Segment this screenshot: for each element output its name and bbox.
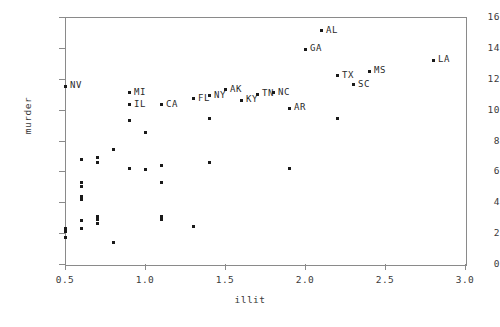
y-tick-label: 10 [448,104,500,115]
x-tick-mark [145,264,146,270]
data-point [288,107,291,110]
data-point [144,168,147,171]
data-point [336,74,339,77]
data-point-label: LA [438,54,450,64]
data-point [160,218,163,221]
data-point-label: IL [134,99,146,109]
data-point [208,161,211,164]
data-point [112,241,115,244]
data-point [272,91,275,94]
data-point [144,131,147,134]
y-tick-label: 4 [448,196,500,207]
x-tick-mark [385,264,386,270]
data-point [128,119,131,122]
data-point-label: KY [246,94,258,104]
data-point [64,85,67,88]
y-tick-label: 8 [448,135,500,146]
data-point-label: NV [70,80,82,90]
data-point [96,222,99,225]
data-point-label: NY [214,90,226,100]
data-point-label: MS [374,65,386,75]
data-point [112,148,115,151]
y-tick-mark [59,79,65,80]
data-point [208,117,211,120]
data-point [96,161,99,164]
data-point [128,91,131,94]
x-tick-mark [225,264,226,270]
x-tick-label: 1.0 [115,274,175,285]
y-tick-mark [59,202,65,203]
data-point [80,198,83,201]
y-tick-label: 6 [448,165,500,176]
x-tick-label: 2.5 [355,274,415,285]
x-tick-label: 3.0 [435,274,495,285]
x-tick-label: 1.5 [195,274,255,285]
data-point [96,156,99,159]
y-tick-mark [59,17,65,18]
y-tick-mark [59,141,65,142]
x-tick-mark [65,264,66,270]
data-point [96,218,99,221]
data-point [160,181,163,184]
data-point-label: SC [358,79,370,89]
y-tick-mark [59,233,65,234]
data-point [320,29,323,32]
data-point-label: AK [230,84,242,94]
y-tick-mark [59,110,65,111]
data-point [256,93,259,96]
data-point [304,48,307,51]
data-point [160,164,163,167]
data-point-label: MI [134,87,146,97]
data-point [288,167,291,170]
data-point [128,103,131,106]
data-point [224,88,227,91]
x-tick-mark [305,264,306,270]
data-point [80,158,83,161]
data-point [352,83,355,86]
y-tick-mark [59,171,65,172]
plot-data-area: NVMIILCAFLNYAKKYTNNCARGAALTXSCMSLA [65,17,465,264]
y-tick-label: 14 [448,42,500,53]
y-tick-label: 0 [448,258,500,269]
data-point [192,97,195,100]
data-point [192,225,195,228]
data-point [368,70,371,73]
y-axis-title: murder [22,81,33,151]
y-tick-label: 16 [448,11,500,22]
data-point-label: CA [166,99,178,109]
y-tick-label: 12 [448,73,500,84]
y-tick-label: 2 [448,227,500,238]
x-tick-mark [465,264,466,270]
data-point [80,219,83,222]
scatter-plot-figure: NVMIILCAFLNYAKKYTNNCARGAALTXSCMSLA 02468… [0,0,500,327]
data-point [80,181,83,184]
y-tick-mark [59,48,65,49]
data-point [240,99,243,102]
data-point [160,103,163,106]
data-point-label: NC [278,87,290,97]
data-point [208,94,211,97]
data-point [128,167,131,170]
data-point-label: TX [342,70,354,80]
x-tick-label: 0.5 [35,274,95,285]
data-point [80,185,83,188]
data-point [336,117,339,120]
data-point [64,236,67,239]
x-axis-title: illit [0,294,500,305]
data-point-label: AL [326,25,338,35]
data-point [432,59,435,62]
data-point-label: AR [294,102,306,112]
data-point [80,227,83,230]
x-tick-label: 2.0 [275,274,335,285]
data-point-label: GA [310,43,322,53]
